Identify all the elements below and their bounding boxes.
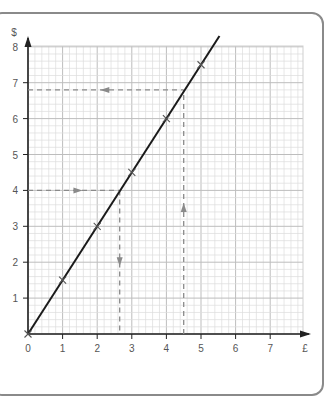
y-tick-label: 1: [12, 293, 18, 304]
x-tick-label: 2: [94, 343, 100, 354]
x-tick-label: 1: [60, 343, 66, 354]
x-tick-label: 7: [267, 343, 273, 354]
y-tick-label: 7: [12, 78, 18, 89]
arrow-left-icon: [100, 87, 109, 93]
y-tick-label: 3: [12, 221, 18, 232]
x-tick-label: 4: [164, 343, 170, 354]
y-tick-label: 2: [12, 257, 18, 268]
x-axis-label: £: [302, 343, 308, 354]
y-tick-label: 5: [12, 150, 18, 161]
x-tick-label: 0: [25, 343, 31, 354]
x-axis-arrow-icon: [300, 331, 311, 338]
y-tick-label: 8: [12, 42, 18, 53]
x-tick-label: 5: [198, 343, 204, 354]
y-tick-label: 6: [12, 114, 18, 125]
conversion-line: [28, 36, 219, 334]
y-axis-label: $: [11, 27, 17, 38]
arrow-right-icon: [73, 187, 82, 193]
y-tick-label: 4: [12, 185, 18, 196]
arrow-up-icon: [181, 203, 187, 212]
x-tick-label: 6: [233, 343, 239, 354]
y-axis-arrow-icon: [25, 36, 32, 47]
x-tick-label: 3: [129, 343, 135, 354]
